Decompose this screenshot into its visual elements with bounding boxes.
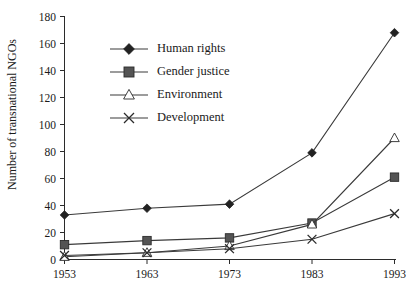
y-tick-label: 140 [39,65,57,77]
y-tick-label: 0 [50,254,56,266]
legend-entry-human-rights[interactable]: Human rights [110,41,226,55]
data-point-diamond [308,149,317,158]
chart-container: Number of transnational NGOs 0 20 40 60 … [0,0,412,285]
x-tick-label: 1953 [53,268,76,280]
series-human-rights [60,28,399,219]
data-point-square [143,236,151,244]
data-point-diamond [143,204,152,213]
legend-label: Development [157,110,225,124]
series-layer [60,28,400,260]
y-tick-label: 120 [39,92,57,104]
series-environment [60,133,400,260]
y-tick-label: 80 [45,146,57,158]
x-tick-label: 1973 [218,268,241,280]
y-axis-title: Number of transnational NGOs [5,39,19,190]
line-chart: Number of transnational NGOs 0 20 40 60 … [0,0,412,285]
legend-label: Human rights [157,41,226,55]
x-axis-ticks: 1953 1963 1973 1983 1993 [53,260,406,281]
data-point-triangle [390,133,400,142]
series-path [65,33,395,215]
y-tick-label: 100 [39,119,57,131]
x-tick-label: 1963 [136,268,159,280]
data-point-diamond [60,211,69,220]
chart-legend: Human rights Gender justice Environment … [110,41,230,124]
legend-entry-gender-justice[interactable]: Gender justice [110,64,230,78]
y-tick-label: 180 [39,11,57,23]
data-point-diamond [390,28,399,37]
data-point-square [60,240,68,248]
y-axis-ticks: 0 20 40 60 80 100 120 140 160 180 [39,11,65,266]
data-point-cross [390,209,399,218]
legend-label: Gender justice [157,64,230,78]
data-point-square [390,173,398,181]
legend-label: Environment [157,87,223,101]
legend-entry-environment[interactable]: Environment [110,87,223,101]
legend-entry-development[interactable]: Development [110,110,225,124]
diamond-filled-icon [124,44,135,55]
y-tick-label: 60 [45,173,57,185]
square-filled-icon [124,67,134,77]
y-tick-label: 160 [39,38,57,50]
y-tick-label: 40 [45,200,57,212]
data-point-diamond [225,200,234,209]
triangle-hollow-icon [124,89,135,99]
x-tick-label: 1983 [301,268,324,280]
x-tick-label: 1993 [383,268,406,280]
y-tick-label: 20 [45,227,57,239]
